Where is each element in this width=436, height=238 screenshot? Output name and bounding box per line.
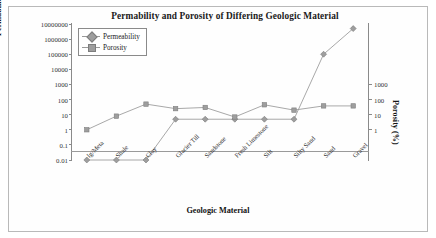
y-axis-left-title: Permability (m/yr) [0, 0, 3, 36]
legend-entry-permeability: Permeability [82, 31, 140, 42]
chart-figure: Permability and Porosity of Differing Ge… [0, 0, 436, 238]
data-point [203, 105, 207, 109]
data-point [173, 116, 179, 122]
legend-entry-porosity: Porosity [82, 42, 140, 53]
legend-label-porosity: Porosity [103, 44, 127, 52]
data-point [261, 116, 267, 122]
data-point [292, 108, 296, 112]
y-tick-left-0.1: 0.1 [60, 141, 69, 148]
y-tick-left-1000: 1000 [54, 81, 68, 88]
y-tick-left-100: 100 [58, 96, 68, 103]
data-point [173, 106, 177, 110]
y-tick-right-1000: 1000 [374, 81, 388, 88]
y-tick-left-0.01: 0.01 [56, 157, 68, 164]
data-point [202, 116, 208, 122]
series-line [87, 104, 353, 130]
y-tick-left-10000000: 10000000 [41, 21, 68, 28]
series-porosity [85, 102, 356, 132]
data-point [321, 104, 325, 108]
y-axis-right-line [368, 23, 369, 161]
y-tick-right-1: 1 [374, 126, 377, 133]
data-point [144, 102, 148, 106]
legend-label-permeability: Permeability [103, 33, 140, 41]
y-tick-left-1000000: 1000000 [44, 36, 68, 43]
chart-title: Permability and Porosity of Differing Ge… [60, 11, 390, 21]
data-point [114, 114, 118, 118]
y-tick-left-10: 10 [61, 111, 68, 118]
x-axis-title: Geologic Material [0, 206, 436, 215]
y-tick-left-10000: 10000 [51, 66, 68, 73]
data-point [262, 103, 266, 107]
y-tick-left-100000: 100000 [48, 51, 68, 58]
data-point [233, 115, 237, 119]
y-tick-left-1: 1 [65, 126, 68, 133]
chart-legend: Permeability Porosity [78, 28, 147, 56]
y-tick-right-100: 100 [374, 96, 384, 103]
data-point [85, 128, 89, 132]
square-marker-icon [82, 43, 100, 52]
y-axis-right-title: Porosity (%) [391, 100, 400, 145]
y-tick-right-10: 10 [374, 111, 381, 118]
diamond-marker-icon [82, 32, 100, 41]
data-point [291, 116, 297, 122]
data-point [351, 104, 355, 108]
